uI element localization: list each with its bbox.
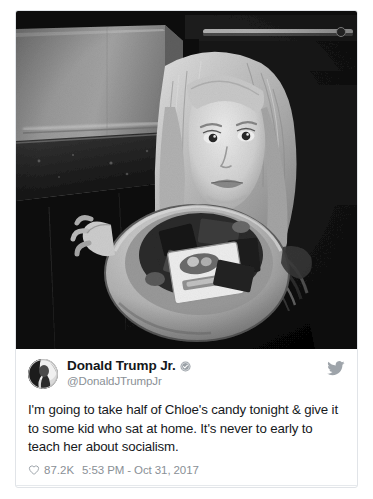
tweet-header: Donald Trump Jr. @DonaldJTrumpJr (28, 358, 345, 392)
tweet-timestamp[interactable]: 5:53 PM - Oct 31, 2017 (82, 464, 199, 476)
like-count: 87.2K (44, 464, 74, 476)
avatar-image (28, 359, 58, 389)
avatar[interactable] (28, 359, 58, 389)
author-handle[interactable]: @DonaldJTrumpJr (67, 375, 191, 387)
author-display-name: Donald Trump Jr. (67, 359, 176, 374)
embedded-tweet-card[interactable]: Donald Trump Jr. @DonaldJTrumpJr I'm goi… (15, 10, 358, 488)
heart-icon[interactable] (28, 464, 40, 476)
twitter-bird-icon[interactable] (327, 361, 345, 376)
tweet-body: Donald Trump Jr. @DonaldJTrumpJr I'm goi… (16, 349, 357, 476)
tweet-text: I'm going to take half of Chloe's candy … (28, 401, 345, 457)
tweet-footer[interactable]: 105K people are talking about this (16, 485, 357, 489)
author-name-block: Donald Trump Jr. @DonaldJTrumpJr (67, 358, 191, 387)
tweet-photo-image (16, 11, 357, 349)
verified-badge-icon (180, 361, 191, 372)
tweet-photo[interactable] (16, 11, 357, 349)
tweet-metrics: 87.2K 5:53 PM - Oct 31, 2017 (28, 464, 345, 476)
display-name-row: Donald Trump Jr. (67, 359, 191, 374)
